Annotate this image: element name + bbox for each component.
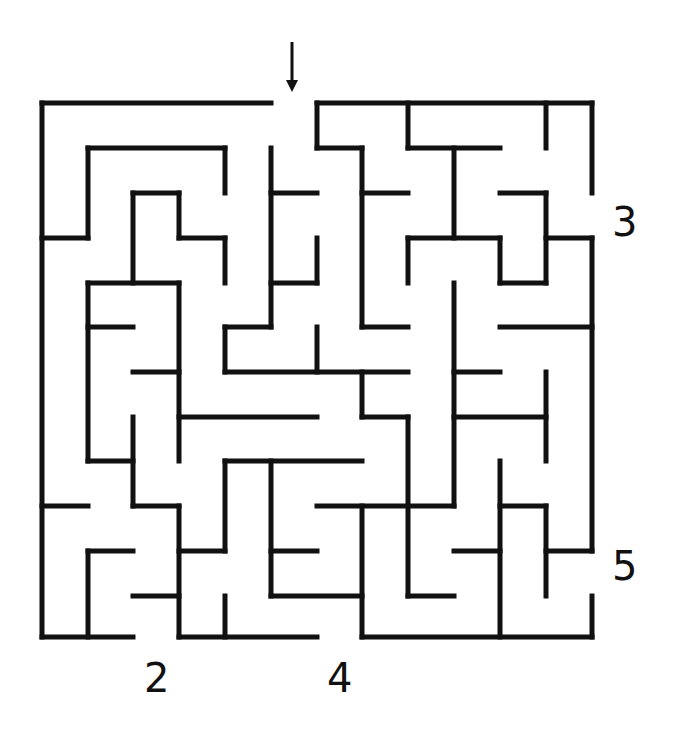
maze-board <box>0 0 678 735</box>
maze-walls <box>42 103 592 637</box>
exit-label-5: 5 <box>612 546 637 586</box>
exit-label-2: 2 <box>144 658 169 698</box>
entrance-arrow-icon <box>286 42 298 92</box>
exit-label-4: 4 <box>327 658 352 698</box>
exit-label-3: 3 <box>612 202 637 242</box>
